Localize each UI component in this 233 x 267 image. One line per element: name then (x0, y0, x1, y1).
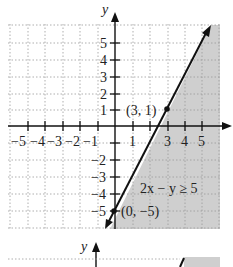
svg-text:−5: −5 (91, 204, 106, 219)
svg-text:2: 2 (100, 87, 107, 102)
svg-text:3: 3 (164, 134, 171, 149)
inequality-graph: y −5 −4 −3 −2 −1 1 3 4 5 5 4 3 2 1 −2 −3… (0, 0, 233, 267)
x-axis-arrow-icon (222, 122, 232, 130)
svg-text:4: 4 (100, 53, 107, 68)
next-graph-fragment: y (8, 239, 220, 267)
point-3-1-label: (3, 1) (126, 103, 157, 119)
svg-text:5: 5 (100, 36, 107, 51)
y-tick-labels: 5 4 3 2 1 −2 −3 −4 −5 (91, 36, 107, 219)
svg-text:−3: −3 (47, 134, 62, 149)
point-3-1 (164, 106, 170, 112)
shaded-region (110, 25, 220, 229)
svg-text:−2: −2 (91, 153, 106, 168)
svg-text:−4: −4 (30, 134, 45, 149)
svg-text:−3: −3 (91, 170, 106, 185)
next-graph-y-axis-label: y (79, 239, 88, 254)
svg-text:3: 3 (100, 70, 107, 85)
point-0-neg5 (111, 208, 117, 214)
svg-text:−4: −4 (91, 187, 106, 202)
svg-text:−1: −1 (83, 134, 98, 149)
y-axis-label: y (100, 2, 109, 17)
svg-text:1: 1 (100, 103, 107, 118)
y-axis-arrow-icon (111, 12, 119, 22)
next-graph-shaded-region (184, 257, 220, 267)
point-0-neg5-label: (0, −5) (121, 204, 160, 220)
svg-text:4: 4 (181, 134, 188, 149)
svg-text:5: 5 (198, 134, 205, 149)
next-graph-y-arrow-icon (92, 242, 100, 252)
svg-text:−5: −5 (11, 134, 26, 149)
svg-text:1: 1 (129, 134, 136, 149)
inequality-label: 2x − y ≥ 5 (140, 181, 198, 196)
svg-text:−2: −2 (65, 134, 80, 149)
